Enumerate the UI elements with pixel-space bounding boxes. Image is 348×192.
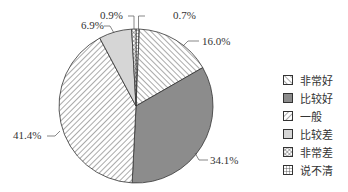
swatch-dark-gray-icon <box>283 93 293 103</box>
data-label: 0.9% <box>100 9 123 21</box>
swatch-forward-diagonal-icon <box>283 111 293 121</box>
swatch-grid-icon <box>283 165 293 175</box>
leader-line <box>195 153 208 160</box>
leader-line <box>139 16 146 29</box>
legend-label: 非常差 <box>300 144 333 160</box>
legend-label: 非常好 <box>300 72 333 88</box>
legend-item-very-poor: 非常差 <box>283 143 333 161</box>
leader-line <box>47 131 60 136</box>
legend-item-unclear: 说不清 <box>283 161 333 179</box>
swatch-light-gray-icon <box>283 129 293 139</box>
legend-item-good: 比较好 <box>283 89 333 107</box>
legend-label: 一般 <box>300 108 322 124</box>
pie-slices <box>59 29 213 183</box>
swatch-crosshatch-icon <box>283 147 293 157</box>
legend-item-very-good: 非常好 <box>283 71 333 89</box>
legend-label: 说不清 <box>300 162 333 178</box>
leader-line <box>183 41 199 46</box>
legend-label: 比较好 <box>300 90 333 106</box>
leader-line <box>128 16 134 29</box>
leader-line <box>104 26 114 33</box>
data-label: 41.4% <box>13 129 41 141</box>
legend-label: 比较差 <box>300 126 333 142</box>
data-label: 34.1% <box>210 154 238 166</box>
legend-item-poor: 比较差 <box>283 125 333 143</box>
data-label: 16.0% <box>202 35 230 47</box>
legend: 非常好 比较好 一般 比较差 非常差 说不清 <box>283 71 333 179</box>
data-label: 0.7% <box>173 9 196 21</box>
legend-item-average: 一般 <box>283 107 333 125</box>
swatch-back-diagonal-icon <box>283 75 293 85</box>
